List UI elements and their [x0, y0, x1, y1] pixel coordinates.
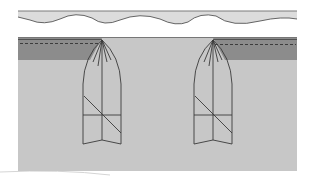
pleat-diagram [0, 0, 314, 179]
top-strip [18, 11, 297, 24]
panel-shadow [0, 171, 110, 175]
